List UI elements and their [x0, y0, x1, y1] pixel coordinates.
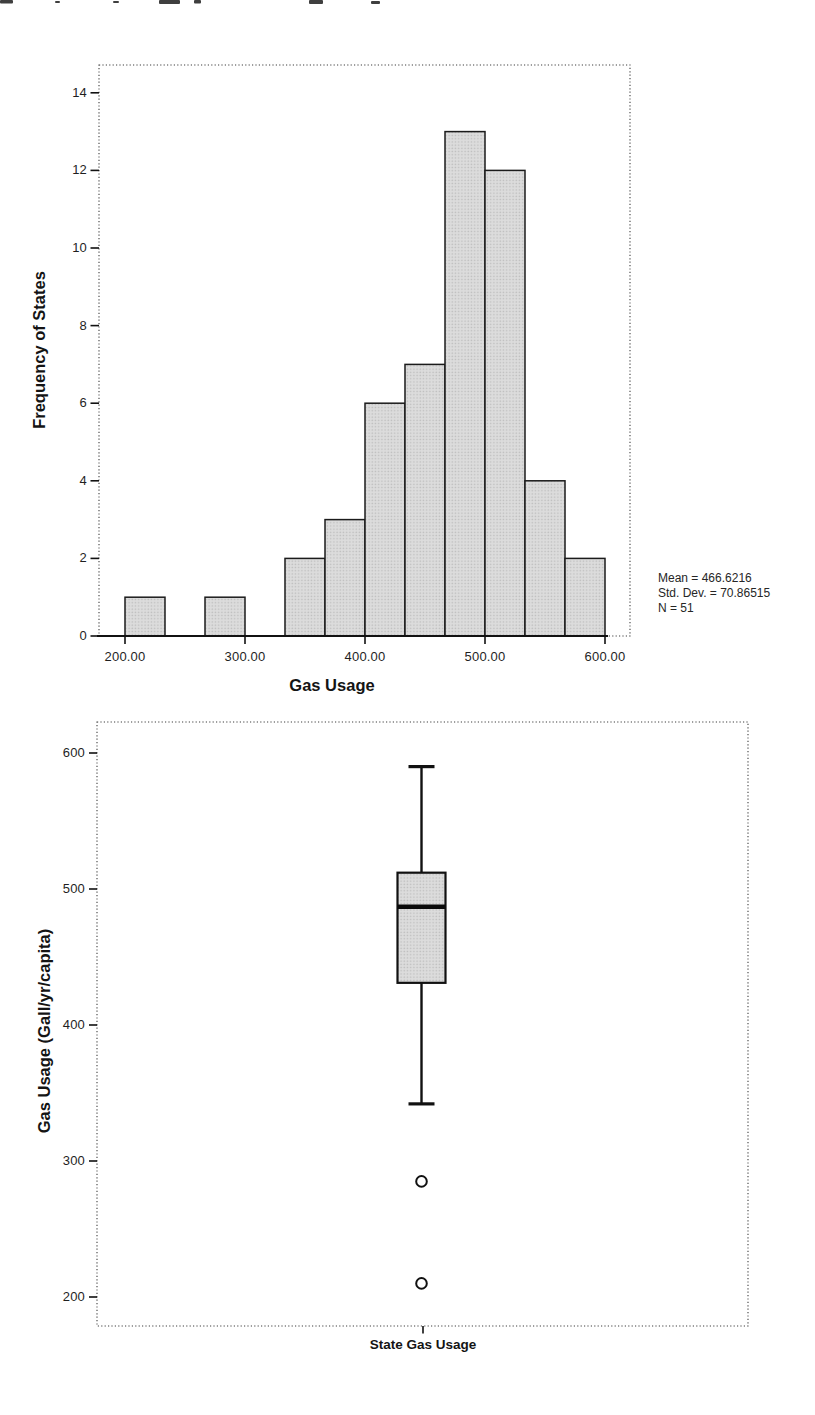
histogram-figure	[91, 65, 631, 644]
boxplot-figure	[89, 722, 748, 1334]
outlier-point	[416, 1278, 427, 1289]
box-ytick-600: 600	[38, 745, 85, 761]
scanned-page: { "page": { "background": "#ffffff", "de…	[0, 0, 815, 1415]
clipped-glyph-mark	[194, 0, 201, 4]
histogram-bar	[205, 597, 245, 636]
hist-ytick-2: 2	[40, 550, 87, 566]
box-xaxis-title: State Gas Usage	[333, 1337, 513, 1353]
iqr-box	[398, 873, 446, 983]
histogram-bar	[125, 597, 165, 636]
histogram-bar	[285, 558, 325, 636]
clipped-glyph-mark	[113, 1, 119, 3]
box-ytick-200: 200	[38, 1289, 85, 1305]
outlier-point	[416, 1176, 427, 1187]
hist-xaxis-title: Gas Usage	[252, 675, 412, 695]
box-yaxis-title: Gas Usage (Gall/yr/capita)	[34, 891, 54, 1171]
clipped-glyph-mark	[159, 0, 180, 4]
clipped-glyph-mark	[309, 0, 323, 4]
hist-xtick-500: 500.00	[453, 649, 517, 665]
hist-ytick-4: 4	[40, 473, 87, 489]
charts-canvas	[0, 0, 815, 1415]
hist-stat-mean: Mean = 466.6216	[658, 571, 770, 586]
clipped-glyph-mark	[0, 0, 13, 4]
hist-xtick-200: 200.00	[93, 649, 157, 665]
hist-ytick-12: 12	[40, 162, 87, 178]
histogram-bar	[405, 364, 445, 636]
histogram-bar	[325, 520, 365, 636]
hist-stat-stddev: Std. Dev. = 70.86515	[658, 586, 770, 601]
histogram-bar	[365, 403, 405, 636]
hist-stats-block: Mean = 466.6216 Std. Dev. = 70.86515 N =…	[658, 571, 770, 617]
hist-ytick-0: 0	[40, 628, 87, 644]
histogram-bar	[445, 132, 485, 636]
histogram-bar	[565, 558, 605, 636]
hist-xtick-300: 300.00	[213, 649, 277, 665]
clipped-text-fragment	[0, 0, 380, 4]
hist-stat-n: N = 51	[658, 601, 770, 616]
clipped-glyph-mark	[55, 1, 60, 3]
hist-yaxis-title: Frequency of States	[29, 250, 49, 450]
clipped-glyph-mark	[371, 1, 380, 4]
hist-xtick-400: 400.00	[333, 649, 397, 665]
hist-ytick-14: 14	[40, 85, 87, 101]
histogram-bar	[525, 481, 565, 636]
hist-xtick-600: 600.00	[573, 649, 637, 665]
histogram-bar	[485, 170, 525, 636]
